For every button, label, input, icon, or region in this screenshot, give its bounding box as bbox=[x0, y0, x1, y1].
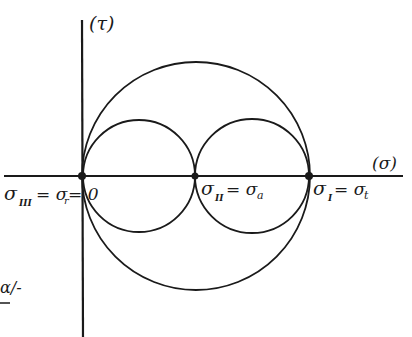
svg-text:t: t bbox=[364, 189, 369, 202]
label-sigma1: σ I = σ t bbox=[313, 177, 369, 203]
svg-text:σ: σ bbox=[313, 177, 327, 199]
svg-text:= σ: = σ bbox=[226, 179, 258, 199]
mohr-circle-diagram: (τ) (σ) σ III = σ r = 0 σ II = σ a σ I =… bbox=[0, 0, 412, 337]
svg-text:σ: σ bbox=[4, 182, 18, 204]
fragment-text: ɑ/- bbox=[0, 278, 22, 297]
svg-text:σ: σ bbox=[201, 177, 215, 199]
tau-axis-label: (τ) bbox=[89, 12, 114, 34]
sigma-axis-label: (σ) bbox=[372, 153, 397, 173]
svg-text:I: I bbox=[327, 193, 333, 203]
label-sigma3: σ III = σ r = 0 bbox=[4, 182, 99, 208]
point-sigma1 bbox=[305, 172, 313, 180]
point-sigma2 bbox=[192, 173, 199, 180]
point-sigma3 bbox=[78, 172, 86, 180]
svg-text:a: a bbox=[257, 189, 264, 202]
label-sigma2: σ II = σ a bbox=[201, 177, 264, 203]
svg-text:II: II bbox=[214, 193, 224, 203]
svg-text:= σ: = σ bbox=[334, 179, 366, 199]
svg-text:= 0: = 0 bbox=[68, 184, 99, 204]
svg-text:= σ: = σ bbox=[36, 184, 68, 204]
svg-text:III: III bbox=[18, 198, 32, 208]
